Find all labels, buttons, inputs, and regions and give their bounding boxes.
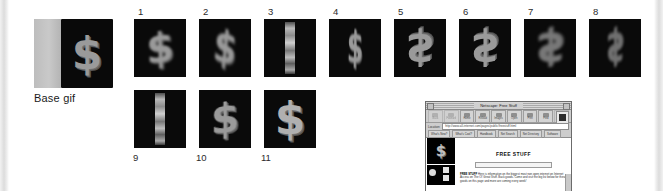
toolbar-button-label: Forward bbox=[446, 117, 456, 120]
page-banner-image: $ bbox=[427, 138, 455, 164]
page-heading: FREE STUFF bbox=[460, 151, 567, 157]
base-gif-label: Base gif bbox=[34, 92, 75, 104]
dollar-sign-icon: $ bbox=[405, 27, 434, 69]
frame-number-5: 5 bbox=[398, 6, 403, 17]
frame-thumb-6: $ bbox=[459, 19, 511, 77]
toolbar-button-label: Back bbox=[433, 117, 439, 120]
page-nav-image[interactable] bbox=[427, 165, 455, 185]
browser-toolbar: Back Forward Home Reload Images Open Pri… bbox=[426, 110, 571, 123]
frame-thumb-2: $ bbox=[199, 19, 251, 77]
dir-button-whats-cool[interactable]: What's Cool? bbox=[452, 130, 475, 138]
dollar-sign-icon: $ bbox=[211, 97, 240, 142]
nav-square-icon[interactable] bbox=[443, 167, 449, 173]
toolbar-button-label: Home bbox=[463, 117, 470, 120]
toolbar-button-label: Open bbox=[511, 117, 517, 120]
document-page: $ Base gif 1 $ 2 $ 3 4 $ 5 $ 6 $ 7 $ bbox=[0, 0, 663, 191]
frame-number-7: 7 bbox=[528, 6, 533, 17]
frame-number-8: 8 bbox=[593, 6, 598, 17]
netscape-browser-window[interactable]: Netscape: Free Stuff Back Forward Home R… bbox=[425, 101, 572, 191]
frame-thumb-1: $ bbox=[134, 19, 186, 77]
frame-thumb-10: $ bbox=[199, 90, 251, 148]
base-gif-block: $ bbox=[34, 19, 113, 88]
dollar-sign-icon: $ bbox=[146, 26, 175, 70]
dollar-sign-icon: $ bbox=[470, 27, 499, 69]
page-divider bbox=[475, 162, 552, 168]
base-gif-gray-panel bbox=[34, 19, 61, 88]
page-right-edge bbox=[654, 0, 663, 191]
frame-number-2: 2 bbox=[203, 6, 208, 17]
base-gif-image: $ bbox=[61, 19, 113, 88]
page-sidebar: $ bbox=[426, 138, 456, 191]
dollar-sign-icon: $ bbox=[275, 97, 306, 141]
toolbar-button-open[interactable]: Open bbox=[507, 110, 522, 123]
toolbar-button-back[interactable]: Back bbox=[428, 110, 443, 123]
frame-number-9: 9 bbox=[133, 152, 138, 163]
browser-content-area: $ FREE STUFF FREE STUFF Here is informat… bbox=[426, 138, 571, 191]
page-main-column: FREE STUFF FREE STUFF Here is informatio… bbox=[456, 138, 571, 191]
frame-thumb-4: $ bbox=[329, 19, 381, 77]
dir-button-whats-new[interactable]: What's New? bbox=[428, 130, 450, 138]
dollar-sign-icon: $ bbox=[211, 24, 238, 71]
frame-number-3: 3 bbox=[268, 6, 273, 17]
directory-buttons-bar: What's New? What's Cool? Handbook Net Se… bbox=[426, 130, 571, 138]
toolbar-button-forward[interactable]: Forward bbox=[444, 110, 459, 123]
frame-thumb-5: $ bbox=[394, 19, 446, 77]
toolbar-button-label: Images bbox=[494, 117, 503, 120]
frame-thumb-3 bbox=[264, 19, 316, 77]
toolbar-button-reload[interactable]: Reload bbox=[475, 110, 490, 123]
dollar-sign-icon: $ bbox=[72, 32, 103, 76]
dir-button-net-directory[interactable]: Net Directory bbox=[520, 130, 542, 138]
frame-thumb-7: $ bbox=[524, 19, 576, 77]
frame-thumb-8: $ bbox=[589, 19, 641, 77]
page-paragraph: FREE STUFF Here is information on the bi… bbox=[460, 173, 567, 183]
page-left-edge bbox=[0, 0, 9, 191]
frame-number-4: 4 bbox=[333, 6, 338, 17]
dollar-sign-icon: $ bbox=[347, 27, 364, 70]
toolbar-button-find[interactable]: Find bbox=[538, 110, 553, 123]
frame-number-6: 6 bbox=[463, 6, 468, 17]
toolbar-button-label: Reload bbox=[479, 117, 487, 120]
dir-button-handbook[interactable]: Handbook bbox=[477, 130, 496, 138]
nav-square-icon[interactable] bbox=[443, 175, 449, 181]
toolbar-button-label: Print bbox=[527, 117, 532, 120]
nav-circle-icon[interactable] bbox=[429, 169, 436, 176]
compressed-frame-icon bbox=[285, 22, 295, 73]
dir-button-software[interactable]: Software bbox=[544, 130, 561, 138]
dollar-sign-icon: $ bbox=[606, 27, 624, 69]
frame-number-1: 1 bbox=[138, 6, 143, 17]
toolbar-button-label: Find bbox=[543, 117, 548, 120]
dir-button-net-search[interactable]: Net Search bbox=[498, 130, 518, 138]
location-label: Location: bbox=[428, 125, 440, 129]
dollar-sign-icon: $ bbox=[535, 27, 564, 69]
content-scrollbar[interactable] bbox=[565, 174, 571, 191]
dollar-sign-icon: $ bbox=[436, 144, 446, 159]
toolbar-button-print[interactable]: Print bbox=[523, 110, 538, 123]
compressed-frame-icon bbox=[155, 93, 165, 144]
frame-thumb-9 bbox=[134, 90, 186, 148]
netscape-logo-icon[interactable] bbox=[556, 111, 569, 124]
toolbar-button-home[interactable]: Home bbox=[460, 110, 475, 123]
frame-thumb-11: $ bbox=[264, 90, 316, 148]
window-title: Netscape: Free Stuff bbox=[474, 103, 523, 109]
frame-number-10: 10 bbox=[196, 152, 207, 163]
frame-number-11: 11 bbox=[261, 152, 271, 163]
toolbar-button-images[interactable]: Images bbox=[491, 110, 506, 123]
